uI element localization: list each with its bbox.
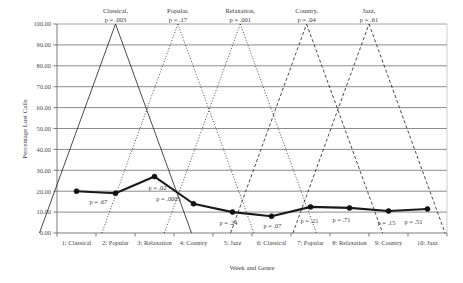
x-category-label: 5: Jazz bbox=[224, 239, 242, 246]
y-tick-label: 10.00 bbox=[37, 208, 51, 215]
genre-annotation-pvalue: p = .04 bbox=[297, 16, 316, 23]
y-tick-label: 0.00 bbox=[40, 229, 51, 236]
y-tick-label: 70.00 bbox=[37, 83, 51, 90]
point-p-value: p = .21 bbox=[301, 217, 319, 224]
data-point-marker bbox=[113, 191, 118, 196]
point-p-value: p = .0005 bbox=[156, 195, 180, 202]
y-tick-label: 40.00 bbox=[37, 146, 51, 153]
x-category-label: 7: Popular bbox=[297, 239, 324, 246]
genre-annotation-name: Popular, bbox=[167, 7, 189, 14]
y-tick-label: 60.00 bbox=[37, 104, 51, 111]
x-category-label: 3: Relaxation bbox=[137, 239, 172, 246]
x-category-label: 8: Relaxation bbox=[332, 239, 367, 246]
x-category-label: 4: Country bbox=[180, 239, 208, 246]
data-point-marker bbox=[269, 214, 274, 219]
genre-annotation-name: Relaxation, bbox=[225, 7, 255, 14]
genre-annotation-name: Jazz, bbox=[363, 7, 376, 14]
genre-annotation-pvalue: p = .001 bbox=[230, 16, 252, 23]
x-category-label: 1: Classical bbox=[62, 239, 92, 246]
x-category-label: 10: Jazz bbox=[417, 239, 438, 246]
x-category-label: 2: Popular bbox=[102, 239, 129, 246]
genre-annotation-name: Classical, bbox=[103, 7, 128, 14]
data-point-marker bbox=[230, 210, 235, 215]
y-tick-label: 50.00 bbox=[37, 125, 51, 132]
data-point-marker bbox=[152, 174, 157, 179]
x-axis-title: Week and Genre bbox=[229, 264, 274, 271]
genre-annotation-name: Country, bbox=[295, 7, 318, 14]
genre-annotation-pvalue: p = .61 bbox=[360, 16, 378, 23]
data-point-marker bbox=[347, 205, 352, 210]
point-p-value: p = .51 bbox=[405, 218, 423, 225]
point-p-value: p = .07 bbox=[264, 222, 283, 229]
y-tick-label: 30.00 bbox=[37, 167, 51, 174]
y-tick-label: 90.00 bbox=[37, 41, 51, 48]
data-point-marker bbox=[308, 204, 313, 209]
y-tick-label: 80.00 bbox=[37, 62, 51, 69]
point-p-value: p = .24 bbox=[220, 219, 239, 226]
y-tick-label: 20.00 bbox=[37, 188, 51, 195]
y-tick-label: 100.00 bbox=[33, 20, 51, 27]
x-category-label: 6: Classical bbox=[257, 239, 287, 246]
genre-annotation-pvalue: p = .003 bbox=[105, 16, 127, 23]
x-category-label: 9: Country bbox=[375, 239, 403, 246]
data-point-marker bbox=[74, 189, 79, 194]
chart-figure: 0.0010.0020.0030.0040.0050.0060.0070.008… bbox=[0, 0, 463, 283]
data-point-marker bbox=[425, 206, 430, 211]
point-p-value: p = .15 bbox=[378, 219, 396, 226]
point-p-value: p = .02 bbox=[149, 184, 167, 191]
point-p-value: p = .71 bbox=[333, 216, 351, 223]
point-p-value: p = .67 bbox=[90, 198, 109, 205]
line-chart: 0.0010.0020.0030.0040.0050.0060.0070.008… bbox=[0, 0, 463, 283]
y-axis-title: Percentage Lost Calls bbox=[21, 99, 28, 159]
data-point-marker bbox=[386, 209, 391, 214]
data-point-marker bbox=[191, 201, 196, 206]
genre-annotation-pvalue: p = .17 bbox=[169, 16, 188, 23]
